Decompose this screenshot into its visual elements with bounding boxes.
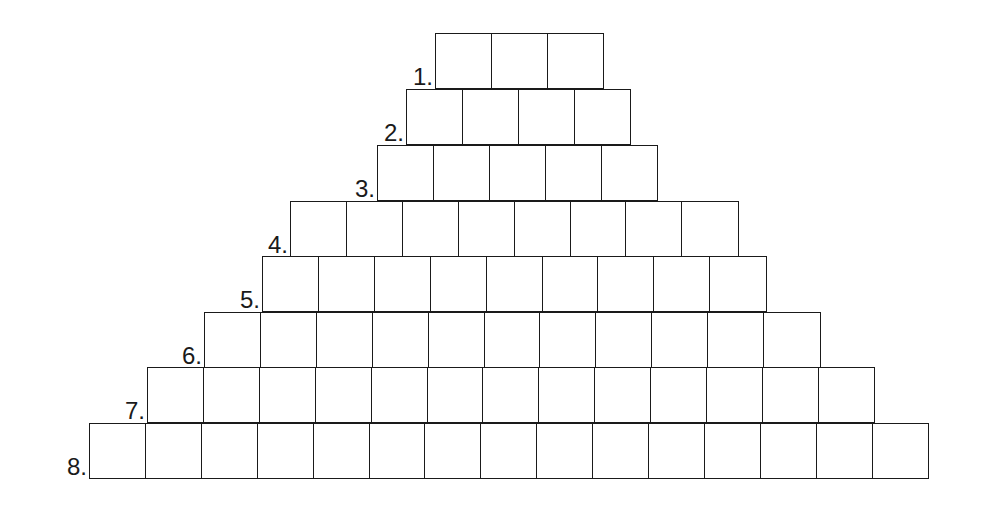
row-number-label: 6. (142, 344, 202, 368)
grid-cell[interactable] (145, 423, 203, 479)
grid-cell[interactable] (433, 145, 491, 201)
grid-cell[interactable] (545, 145, 603, 201)
row-number-label: 1. (373, 65, 433, 89)
grid-cell[interactable] (290, 201, 348, 257)
grid-cell[interactable] (374, 256, 432, 312)
grid-cell[interactable] (762, 367, 820, 423)
grid-cell[interactable] (406, 89, 464, 145)
grid-cell[interactable] (89, 423, 147, 479)
grid-cell[interactable] (458, 201, 516, 257)
grid-cell[interactable] (709, 256, 767, 312)
grid-cell[interactable] (430, 256, 488, 312)
grid-cell[interactable] (518, 89, 576, 145)
grid-row-7 (147, 367, 875, 423)
grid-row-6 (204, 312, 821, 368)
grid-cell[interactable] (707, 312, 765, 368)
grid-cell[interactable] (371, 367, 429, 423)
grid-cell[interactable] (369, 423, 427, 479)
grid-cell[interactable] (262, 256, 320, 312)
grid-cell[interactable] (594, 367, 652, 423)
grid-cell[interactable] (377, 145, 435, 201)
grid-cell[interactable] (260, 312, 318, 368)
grid-cell[interactable] (818, 367, 876, 423)
grid-cell[interactable] (706, 367, 764, 423)
grid-row-4 (290, 201, 739, 257)
grid-cell[interactable] (372, 312, 430, 368)
grid-cell[interactable] (424, 423, 482, 479)
grid-cell[interactable] (625, 201, 683, 257)
grid-cell[interactable] (601, 145, 659, 201)
grid-cell[interactable] (204, 312, 262, 368)
grid-cell[interactable] (315, 367, 373, 423)
grid-cell[interactable] (816, 423, 874, 479)
grid-row-2 (406, 89, 631, 145)
grid-cell[interactable] (681, 201, 739, 257)
grid-cell[interactable] (147, 367, 205, 423)
grid-cell[interactable] (704, 423, 762, 479)
grid-cell[interactable] (428, 312, 486, 368)
row-number-label: 4. (228, 233, 288, 257)
grid-cell[interactable] (760, 423, 818, 479)
grid-cell[interactable] (480, 423, 538, 479)
grid-cell[interactable] (570, 201, 628, 257)
grid-cell[interactable] (491, 33, 549, 89)
row-number-label: 8. (27, 455, 87, 479)
grid-cell[interactable] (648, 423, 706, 479)
grid-row-1 (435, 33, 604, 89)
grid-row-5 (262, 256, 767, 312)
grid-cell[interactable] (597, 256, 655, 312)
grid-cell[interactable] (484, 312, 542, 368)
grid-cell[interactable] (346, 201, 404, 257)
grid-cell[interactable] (259, 367, 317, 423)
grid-row-8 (89, 423, 929, 479)
row-number-label: 2. (344, 121, 404, 145)
grid-cell[interactable] (542, 256, 600, 312)
grid-cell[interactable] (872, 423, 930, 479)
grid-cell[interactable] (592, 423, 650, 479)
grid-cell[interactable] (427, 367, 485, 423)
grid-cell[interactable] (595, 312, 653, 368)
grid-cell[interactable] (313, 423, 371, 479)
grid-cell[interactable] (462, 89, 520, 145)
grid-cell[interactable] (316, 312, 374, 368)
grid-cell[interactable] (203, 367, 261, 423)
grid-cell[interactable] (539, 312, 597, 368)
grid-cell[interactable] (651, 312, 709, 368)
grid-cell[interactable] (482, 367, 540, 423)
grid-row-3 (377, 145, 658, 201)
row-number-label: 3. (315, 177, 375, 201)
grid-cell[interactable] (257, 423, 315, 479)
grid-cell[interactable] (763, 312, 821, 368)
grid-cell[interactable] (650, 367, 708, 423)
grid-cell[interactable] (201, 423, 259, 479)
grid-cell[interactable] (489, 145, 547, 201)
grid-cell[interactable] (435, 33, 493, 89)
grid-cell[interactable] (653, 256, 711, 312)
grid-cell[interactable] (547, 33, 605, 89)
row-number-label: 5. (200, 288, 260, 312)
row-number-label: 7. (85, 399, 145, 423)
grid-cell[interactable] (514, 201, 572, 257)
grid-cell[interactable] (402, 201, 460, 257)
grid-cell[interactable] (318, 256, 376, 312)
grid-cell[interactable] (574, 89, 632, 145)
grid-cell[interactable] (536, 423, 594, 479)
grid-cell[interactable] (486, 256, 544, 312)
grid-cell[interactable] (538, 367, 596, 423)
